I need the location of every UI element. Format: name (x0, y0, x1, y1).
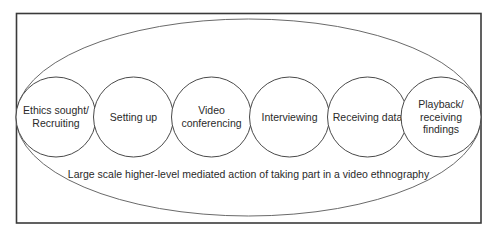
stage-2: Setting up (94, 77, 174, 157)
stage-label: conferencing (181, 117, 241, 129)
stage-4: Interviewing (250, 77, 330, 157)
stage-label: Playback/ (418, 98, 464, 110)
stage-3: Videoconferencing (172, 77, 252, 157)
outer-caption: Large scale higher-level mediated action… (68, 168, 430, 180)
stage-6: Playback/receivingfindings (401, 77, 481, 157)
stage-1: Ethics sought/Recruiting (16, 77, 96, 157)
diagram-canvas: Ethics sought/RecruitingSetting upVideoc… (0, 0, 496, 232)
stage-label: receiving (420, 111, 462, 123)
stage-label: Setting up (110, 111, 157, 123)
stage-5: Receiving data (328, 77, 408, 157)
stage-label: Interviewing (261, 111, 317, 123)
stage-label: findings (423, 123, 459, 135)
stage-label: Receiving data (333, 111, 403, 123)
stage-circles: Ethics sought/RecruitingSetting upVideoc… (16, 77, 481, 157)
stage-label: Ethics sought/ (23, 104, 89, 116)
stage-label: Video (198, 104, 225, 116)
stage-label: Recruiting (32, 117, 79, 129)
